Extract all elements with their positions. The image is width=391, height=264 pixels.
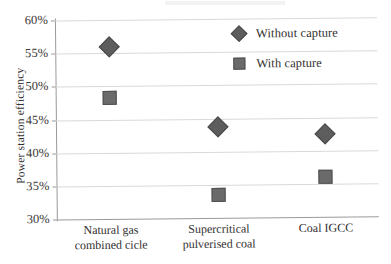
gridline [56, 84, 378, 88]
y-axis-tick-label: 50% [25, 79, 48, 94]
diamond-marker-icon [231, 25, 248, 42]
y-axis-tick [52, 87, 56, 88]
y-axis-tick [53, 186, 57, 187]
legend-label-with-capture: With capture [256, 55, 322, 71]
y-axis-tick [52, 153, 56, 154]
data-point-square [212, 188, 226, 202]
y-axis-tick-label: 35% [26, 179, 49, 194]
y-axis-tick-label: 55% [25, 46, 48, 61]
data-point-diamond [314, 123, 335, 144]
y-axis-tick-label: 30% [27, 212, 50, 227]
legend-label-without-capture: Without capture [256, 25, 338, 41]
chart-tilt-frame: Power station efficiency 60%55%50%45%40%… [0, 0, 391, 264]
y-axis-tick-label: 45% [26, 112, 49, 127]
y-axis-tick-label: 60% [25, 13, 48, 28]
x-axis-label-layer: Natural gas combined cicleSupercritical … [0, 0, 390, 2]
x-axis-category-label: Supercritical pulverised coal [182, 221, 255, 251]
legend-item-with-capture: With capture [231, 49, 381, 76]
data-point-square [318, 170, 332, 184]
data-point-square [103, 91, 117, 105]
y-axis-tick [52, 120, 56, 121]
square-marker-icon [233, 58, 245, 70]
y-axis-tick [51, 54, 55, 55]
y-axis-tick [53, 219, 57, 220]
data-point-diamond [207, 116, 228, 137]
x-axis-category-label: Coal IGCC [299, 221, 353, 236]
legend-item-without-capture: Without capture [231, 19, 381, 46]
y-axis-tick-label: 40% [26, 146, 49, 161]
x-axis-category-label: Natural gas combined cicle [74, 223, 147, 253]
chart-legend: Without capture With capture [231, 19, 382, 80]
y-axis-tick [51, 20, 55, 21]
chart-container: Power station efficiency 60%55%50%45%40%… [0, 0, 391, 264]
gridline [56, 150, 378, 154]
